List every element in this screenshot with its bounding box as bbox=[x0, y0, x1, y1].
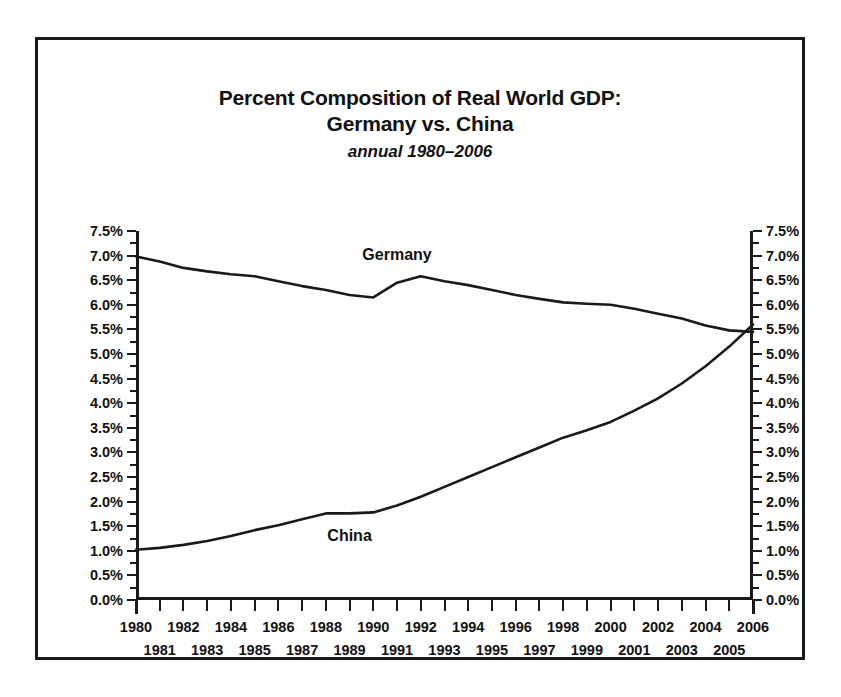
x-axis-label: 2001 bbox=[618, 643, 650, 658]
x-tick bbox=[681, 600, 683, 611]
x-tick bbox=[182, 600, 184, 611]
y-axis-right-label: 0.5% bbox=[766, 568, 799, 583]
y-axis-left-label: 6.5% bbox=[90, 273, 123, 288]
y-tick-right bbox=[753, 501, 762, 503]
y-tick-minor-right bbox=[753, 464, 759, 466]
x-tick bbox=[538, 600, 540, 611]
series-label-germany: Germany bbox=[362, 246, 431, 264]
y-axis-left-label: 1.0% bbox=[90, 544, 123, 559]
y-tick-minor-right bbox=[753, 415, 759, 417]
y-axis-right-label: 3.5% bbox=[766, 421, 799, 436]
y-tick-left bbox=[127, 328, 136, 330]
x-tick bbox=[657, 600, 659, 611]
x-axis-label: 1999 bbox=[571, 643, 603, 658]
x-axis-label: 1998 bbox=[547, 620, 579, 635]
y-tick-right bbox=[753, 476, 762, 478]
y-tick-minor-right bbox=[753, 292, 759, 294]
series-lines bbox=[136, 231, 753, 600]
y-tick-right bbox=[753, 550, 762, 552]
y-tick-minor-right bbox=[753, 439, 759, 441]
y-tick-left bbox=[127, 476, 136, 478]
y-tick-minor-right bbox=[753, 562, 759, 564]
y-tick-right bbox=[753, 402, 762, 404]
y-axis-left-label: 2.0% bbox=[90, 495, 123, 510]
chart-frame: Percent Composition of Real World GDP: G… bbox=[35, 37, 805, 660]
y-axis-left-label: 6.0% bbox=[90, 298, 123, 313]
y-tick-minor-right bbox=[753, 390, 759, 392]
x-tick bbox=[705, 600, 707, 611]
y-tick-minor-right bbox=[753, 513, 759, 515]
x-axis-label: 2002 bbox=[642, 620, 674, 635]
y-tick-left bbox=[127, 451, 136, 453]
x-axis-label: 1991 bbox=[381, 643, 413, 658]
y-tick-left bbox=[127, 279, 136, 281]
y-axis-right-label: 6.5% bbox=[766, 273, 799, 288]
y-axis-right-label: 4.0% bbox=[766, 396, 799, 411]
y-axis-right-label: 6.0% bbox=[766, 298, 799, 313]
y-tick-minor-right bbox=[753, 488, 759, 490]
y-tick-left bbox=[127, 353, 136, 355]
y-axis-left-label: 5.0% bbox=[90, 347, 123, 362]
x-tick bbox=[230, 600, 232, 611]
x-tick bbox=[135, 600, 138, 614]
series-label-china: China bbox=[327, 527, 371, 545]
x-tick bbox=[325, 600, 327, 611]
x-tick bbox=[728, 600, 730, 611]
y-axis-right-label: 2.0% bbox=[766, 495, 799, 510]
x-axis-label: 1983 bbox=[191, 643, 223, 658]
y-axis-left-label: 0.0% bbox=[90, 593, 123, 608]
x-tick bbox=[420, 600, 422, 611]
x-tick bbox=[206, 600, 208, 611]
y-tick-right bbox=[753, 378, 762, 380]
y-tick-right bbox=[753, 328, 762, 330]
x-axis-label: 2003 bbox=[666, 643, 698, 658]
y-tick-minor-right bbox=[753, 316, 759, 318]
y-tick-left bbox=[127, 501, 136, 503]
x-axis-label: 1980 bbox=[120, 620, 152, 635]
x-axis-label: 1984 bbox=[215, 620, 247, 635]
x-tick bbox=[752, 600, 755, 614]
x-axis-label: 1995 bbox=[476, 643, 508, 658]
y-tick-left bbox=[127, 402, 136, 404]
y-tick-right bbox=[753, 525, 762, 527]
plot-area: 0.0%0.5%1.0%1.5%2.0%2.5%3.0%3.5%4.0%4.5%… bbox=[136, 231, 753, 600]
y-tick-right bbox=[753, 574, 762, 576]
x-tick bbox=[515, 600, 517, 611]
x-tick bbox=[610, 600, 612, 611]
y-tick-left bbox=[127, 255, 136, 257]
x-tick bbox=[444, 600, 446, 611]
x-axis-label: 2000 bbox=[594, 620, 626, 635]
y-tick-right bbox=[753, 451, 762, 453]
series-line-china bbox=[136, 324, 753, 549]
y-tick-right bbox=[753, 353, 762, 355]
x-axis-label: 2005 bbox=[713, 643, 745, 658]
y-tick-minor-right bbox=[753, 538, 759, 540]
y-axis-right-label: 1.5% bbox=[766, 519, 799, 534]
chart-title-line-2: Germany vs. China bbox=[38, 111, 802, 137]
x-tick bbox=[467, 600, 469, 611]
x-axis-label: 1981 bbox=[144, 643, 176, 658]
y-tick-left bbox=[127, 525, 136, 527]
y-tick-right bbox=[753, 230, 762, 232]
y-axis-left-label: 4.5% bbox=[90, 372, 123, 387]
x-axis-label: 1989 bbox=[333, 643, 365, 658]
x-tick bbox=[349, 600, 351, 611]
x-axis-label: 1987 bbox=[286, 643, 318, 658]
x-axis-label: 2004 bbox=[689, 620, 721, 635]
y-tick-right bbox=[753, 279, 762, 281]
y-tick-left bbox=[127, 550, 136, 552]
y-axis-left-label: 3.5% bbox=[90, 421, 123, 436]
y-axis-right-label: 7.0% bbox=[766, 249, 799, 264]
x-tick bbox=[491, 600, 493, 611]
y-axis-right-label: 4.5% bbox=[766, 372, 799, 387]
y-tick-right bbox=[753, 304, 762, 306]
y-axis-left-label: 0.5% bbox=[90, 568, 123, 583]
x-axis-label: 1982 bbox=[167, 620, 199, 635]
x-tick bbox=[586, 600, 588, 611]
chart-subtitle: annual 1980–2006 bbox=[38, 141, 802, 162]
x-axis-label: 1985 bbox=[239, 643, 271, 658]
x-tick bbox=[277, 600, 279, 611]
series-line-germany bbox=[136, 257, 753, 332]
x-tick bbox=[562, 600, 564, 611]
y-tick-left bbox=[127, 230, 136, 232]
